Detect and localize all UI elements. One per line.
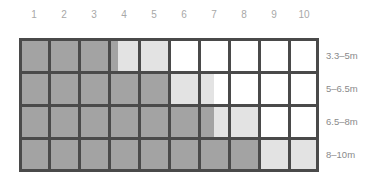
column-label-9: 9 — [259, 9, 289, 20]
column-label-6: 6 — [169, 9, 199, 20]
column-labels: 1 2 3 4 5 6 7 8 9 10 — [19, 9, 319, 23]
column-label-4: 4 — [109, 9, 139, 20]
grid-horizontal-line — [19, 169, 319, 172]
grid-horizontal-line — [19, 104, 319, 107]
column-label-5: 5 — [139, 9, 169, 20]
chart-grid — [19, 38, 319, 172]
column-label-7: 7 — [199, 9, 229, 20]
grid-horizontal-line — [19, 137, 319, 140]
row-label-5-6m: 5–6.5m — [326, 83, 358, 94]
column-label-10: 10 — [289, 9, 319, 20]
column-label-1: 1 — [19, 9, 49, 20]
dark-fill — [19, 73, 169, 106]
row-labels: 3.3–5m 5–6.5m 6.5–8m 8–10m — [326, 38, 375, 172]
row-label-8-10m: 8–10m — [326, 149, 355, 160]
column-label-8: 8 — [229, 9, 259, 20]
column-label-2: 2 — [49, 9, 79, 20]
row-label-3-5m: 3.3–5m — [326, 50, 358, 61]
row-label-6-8m: 6.5–8m — [326, 116, 358, 127]
grid-horizontal-line — [19, 38, 319, 41]
grid-horizontal-line — [19, 71, 319, 74]
column-label-3: 3 — [79, 9, 109, 20]
dark-fill — [19, 40, 118, 73]
